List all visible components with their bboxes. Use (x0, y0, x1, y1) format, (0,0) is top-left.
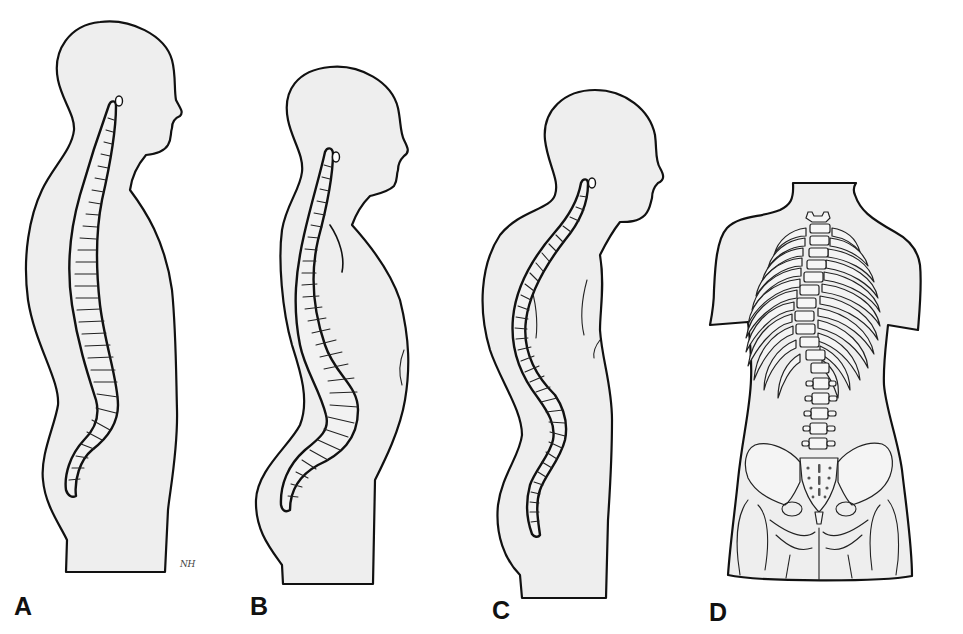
panel-c-figure (483, 90, 664, 598)
panel-d-figure (710, 183, 921, 580)
panel-a-figure (26, 21, 182, 572)
panel-label-c: C (492, 598, 510, 623)
posture-illustration: A B C D NH (0, 0, 963, 634)
panel-b-figure (256, 67, 408, 584)
panel-label-a: A (14, 594, 32, 619)
artist-signature: NH (180, 559, 195, 569)
panel-label-b: B (250, 594, 268, 619)
panel-label-d: D (709, 600, 727, 625)
